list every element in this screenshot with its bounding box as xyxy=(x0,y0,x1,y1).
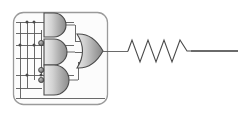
junction-dot xyxy=(19,44,22,47)
inversion-bubble xyxy=(39,77,44,82)
junction-dot xyxy=(40,74,43,77)
logic-circuit-diagram xyxy=(0,0,249,117)
schematic-canvas xyxy=(0,0,249,117)
inversion-bubble xyxy=(39,40,44,45)
resistor-symbol xyxy=(128,40,191,62)
inversion-bubble xyxy=(39,67,44,72)
junction-dot xyxy=(26,74,29,77)
junction-dot xyxy=(33,21,36,24)
junction-dot xyxy=(33,44,36,47)
junction-dot xyxy=(26,21,29,24)
